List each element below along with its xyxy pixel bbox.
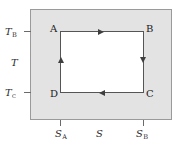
- tick-x-s-a: [60, 120, 61, 126]
- vertex-label-d: D: [50, 89, 58, 99]
- axis-label-s-a: SA: [55, 129, 67, 139]
- axis-label-s-b-base: S: [136, 128, 143, 139]
- axis-label-t-cold: Tc: [5, 88, 16, 98]
- arrow-left-icon: [99, 90, 105, 96]
- tick-y-t-cold: [24, 92, 31, 93]
- vertex-label-c: C: [146, 89, 154, 99]
- vertex-label-b: B: [146, 24, 153, 34]
- cycle-interior-area: [60, 31, 143, 92]
- arrow-down-icon: [140, 57, 146, 63]
- arrow-right-icon: [98, 29, 104, 35]
- axis-label-s-a-sub: A: [62, 133, 67, 141]
- axis-label-s-a-base: S: [55, 128, 62, 139]
- axis-label-s-b-sub: B: [143, 133, 148, 141]
- axis-label-t-hot-base: T: [5, 26, 12, 37]
- axis-label-t-cold-sub: c: [12, 92, 16, 100]
- vertex-label-a: A: [50, 24, 57, 34]
- axis-label-t-cold-base: T: [5, 87, 12, 98]
- axis-label-t-hot: TB: [5, 27, 16, 37]
- axis-label-t: T: [11, 58, 18, 68]
- axis-label-s-b: SB: [136, 129, 148, 139]
- arrow-up-icon: [58, 57, 64, 63]
- axis-label-t-hot-sub: B: [12, 31, 17, 39]
- tick-x-s-b: [143, 120, 144, 126]
- carnot-cycle-figure: A B C D TB T Tc SA S SB: [0, 0, 182, 150]
- axis-label-s: S: [96, 129, 103, 139]
- tick-y-t-hot: [24, 31, 31, 32]
